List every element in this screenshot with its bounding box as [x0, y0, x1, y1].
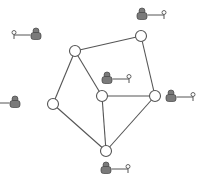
user-lock-icon	[10, 96, 20, 108]
nodes-layer	[48, 31, 161, 157]
user-body	[137, 13, 147, 20]
node-n3[interactable]	[97, 91, 108, 102]
user-body	[31, 33, 41, 40]
key-bow	[127, 75, 131, 79]
key-icon	[148, 11, 167, 20]
key-bow	[126, 165, 130, 169]
edge-n1-n2	[75, 36, 141, 51]
node-n2[interactable]	[136, 31, 147, 42]
user-lock-icon	[166, 90, 176, 102]
edge-n4-n6	[106, 96, 155, 151]
user-key-pair-n6	[101, 162, 130, 174]
user-body	[166, 95, 176, 102]
key-icon	[12, 31, 31, 40]
user-key-pair-n2	[137, 8, 166, 20]
user-lock-icon	[101, 162, 111, 174]
users-layer	[0, 8, 195, 174]
key-bow	[162, 11, 166, 15]
node-n6[interactable]	[101, 146, 112, 157]
user-lock-icon	[102, 72, 112, 84]
user-body	[101, 167, 111, 174]
edge-n1-n5	[53, 51, 75, 104]
edge-n2-n4	[141, 36, 155, 96]
key-icon	[0, 99, 10, 108]
key-icon	[113, 75, 132, 84]
user-body	[102, 77, 112, 84]
edge-n3-n6	[102, 96, 106, 151]
user-key-pair-n5	[0, 96, 20, 108]
user-body	[10, 101, 20, 108]
node-n5[interactable]	[48, 99, 59, 110]
user-lock-icon	[31, 28, 41, 40]
key-bow	[12, 31, 16, 35]
key-icon	[177, 93, 196, 102]
network-diagram	[0, 0, 208, 183]
edge-n5-n6	[53, 104, 106, 151]
user-lock-icon	[137, 8, 147, 20]
key-icon	[112, 165, 131, 174]
node-n1[interactable]	[70, 46, 81, 57]
node-n4[interactable]	[150, 91, 161, 102]
user-key-pair-n1	[12, 28, 41, 40]
user-key-pair-n4	[166, 90, 195, 102]
key-bow	[191, 93, 195, 97]
edge-n1-n3	[75, 51, 102, 96]
user-key-pair-n3	[102, 72, 131, 84]
